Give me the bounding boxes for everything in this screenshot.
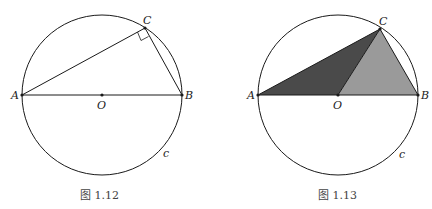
label-circle-c: c [399, 148, 405, 161]
label-o: O [333, 99, 342, 112]
point-a [256, 93, 259, 96]
point-b [180, 93, 183, 96]
point-a [20, 93, 23, 96]
point-b [416, 93, 419, 96]
point-o [336, 93, 339, 96]
label-circle-c: c [163, 147, 169, 160]
label-b: B [184, 89, 193, 102]
label-a: A [10, 89, 19, 102]
segment-cb [145, 28, 182, 95]
segment-ac [22, 28, 145, 95]
diagram-canvas: A B O C c 图 1.12 A B O C c 图 1.13 [0, 0, 432, 209]
caption: 图 1.12 [80, 189, 119, 202]
figure-1-13: A B O C c 图 1.13 [246, 15, 429, 202]
point-o [100, 93, 103, 96]
label-c: C [379, 15, 388, 28]
right-angle-marker [138, 32, 149, 41]
caption: 图 1.13 [318, 189, 357, 202]
label-b: B [420, 89, 429, 102]
label-o: O [97, 99, 106, 112]
label-c: C [143, 14, 152, 27]
label-a: A [246, 89, 255, 102]
figure-1-12: A B O C c 图 1.12 [10, 14, 193, 202]
